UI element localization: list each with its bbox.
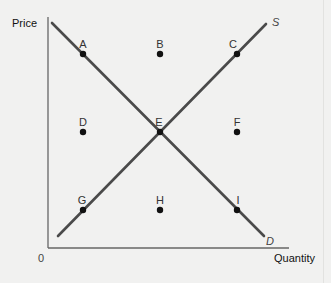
supply-demand-diagram: Price Quantity 0 S D A B C D E F G H I [0, 0, 331, 283]
quantity-axis-label: Quantity [274, 252, 315, 264]
demand-curve-label: D [266, 235, 274, 247]
point-g-label: G [78, 194, 87, 206]
point-i-dot [234, 207, 240, 213]
origin-label: 0 [38, 252, 44, 264]
supply-curve-label: S [272, 16, 280, 28]
point-f-label: F [234, 116, 241, 128]
point-d-dot [80, 129, 86, 135]
point-b-label: B [156, 38, 163, 50]
point-a-label: A [79, 38, 87, 50]
point-b-dot [157, 51, 163, 57]
point-f-dot [234, 129, 240, 135]
diagram-canvas: Price Quantity 0 S D A B C D E F G H I [0, 0, 331, 283]
price-axis-label: Price [12, 17, 37, 29]
point-d-label: D [79, 116, 87, 128]
point-c-label: C [229, 38, 237, 50]
point-a-dot [80, 51, 86, 57]
point-i-label: I [236, 194, 239, 206]
point-e-dot [157, 129, 163, 135]
point-g-dot [80, 207, 86, 213]
point-h-dot [157, 207, 163, 213]
point-c-dot [234, 51, 240, 57]
point-h-label: H [156, 194, 164, 206]
point-e-label: E [155, 116, 162, 128]
